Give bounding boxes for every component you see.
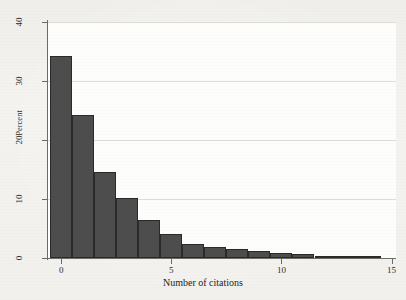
bar-6 — [182, 244, 204, 258]
y-tick-30 — [42, 81, 48, 82]
bar-10 — [270, 253, 292, 258]
bar-11 — [292, 254, 314, 258]
x-tick-15 — [392, 259, 393, 264]
x-axis-line — [47, 258, 396, 259]
bar-14 — [359, 256, 381, 258]
bar-12 — [315, 256, 337, 258]
histogram-figure: 010203040 051015 Percent Number of citat… — [0, 0, 406, 300]
y-tick-label-10: 10 — [11, 180, 27, 218]
y-tick-20 — [42, 140, 48, 141]
bar-1 — [72, 115, 94, 258]
x-tick-5 — [171, 259, 172, 264]
bar-3 — [116, 198, 138, 258]
bar-4 — [138, 220, 160, 258]
y-tick-0 — [42, 258, 48, 259]
bar-2 — [94, 172, 116, 258]
x-axis-label: Number of citations — [0, 277, 406, 288]
bar-7 — [204, 247, 226, 258]
y-tick-label-30: 30 — [11, 62, 27, 100]
x-tick-label-10: 10 — [277, 265, 286, 275]
bar-13 — [337, 256, 359, 258]
bar-series — [48, 22, 396, 258]
x-tick-label-5: 5 — [169, 265, 174, 275]
y-tick-40 — [42, 22, 48, 23]
y-axis-label: Percent — [14, 110, 24, 136]
y-tick-label-0: 0 — [11, 239, 27, 277]
y-tick-label-40: 40 — [11, 3, 27, 41]
x-tick-label-0: 0 — [59, 265, 64, 275]
bar-0 — [50, 56, 72, 258]
bar-8 — [226, 249, 248, 258]
x-tick-10 — [281, 259, 282, 264]
bar-5 — [160, 234, 182, 258]
x-tick-label-15: 15 — [387, 265, 396, 275]
x-tick-0 — [61, 259, 62, 264]
bar-9 — [248, 251, 270, 258]
scanned-page: 010203040 051015 Percent Number of citat… — [0, 0, 406, 300]
y-tick-10 — [42, 199, 48, 200]
